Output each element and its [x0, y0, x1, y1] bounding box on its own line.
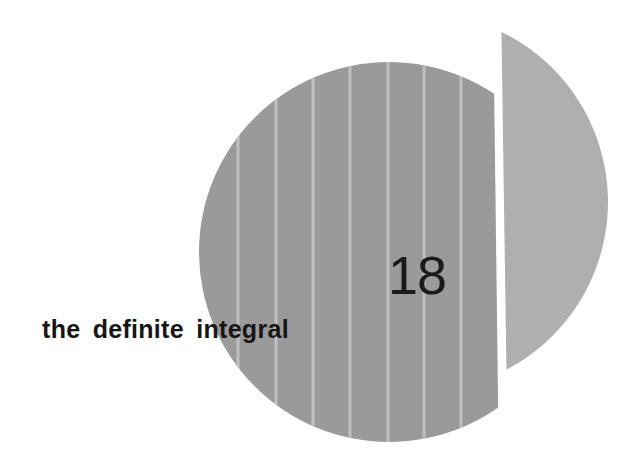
stripe — [312, 0, 315, 476]
stripe — [237, 0, 240, 476]
stripe — [387, 0, 390, 476]
stripe — [275, 0, 278, 476]
chapter-title: the definite integral — [42, 314, 289, 344]
stripe — [460, 0, 463, 476]
chapter-number: 18 — [388, 248, 446, 302]
chapter-opener-artwork — [0, 0, 636, 476]
stripe — [349, 0, 352, 476]
stripe — [423, 0, 426, 476]
